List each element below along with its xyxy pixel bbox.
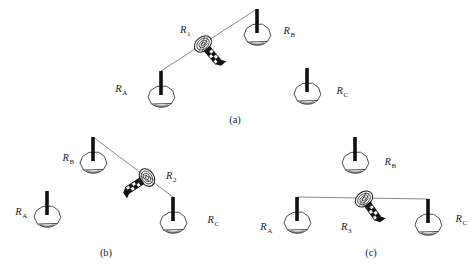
label-node-rb-b: RB (62, 153, 73, 164)
label-node-ra-a: RA (115, 84, 126, 95)
node-rc-panel-b (160, 197, 187, 233)
caption-panel-a: (a) (229, 115, 241, 126)
caption-panel-c: (c) (365, 248, 377, 259)
caption-panel-b: (b) (100, 248, 112, 259)
label-relay-r3: R3 (341, 222, 351, 233)
node-ra-panel-a (148, 71, 175, 107)
label-node-rb-a: RB (283, 26, 294, 37)
label-node-rb-c: RB (384, 157, 395, 168)
label-node-rc-c: RC (455, 214, 466, 225)
panel-c (284, 137, 442, 235)
label-node-ra-b: RA (15, 207, 26, 218)
node-ra-panel-b (34, 191, 61, 227)
node-rb-panel-b (80, 137, 107, 173)
label-node-rc-a: RC (336, 86, 347, 97)
panel-a (148, 9, 321, 107)
label-relay-r1: R1 (180, 25, 190, 36)
relay-device-r1 (191, 33, 228, 72)
relay-device-r3 (352, 188, 388, 228)
node-rc-panel-c (415, 199, 442, 235)
figure-canvas: R1 RB RA RC (a) RB R2 RA RC (b) RB RA R3… (0, 0, 475, 270)
node-rb-panel-c (342, 137, 369, 173)
label-node-ra-c: RA (260, 222, 271, 233)
panel-b (34, 137, 187, 233)
label-relay-r2: R2 (166, 171, 176, 182)
label-node-rc-b: RC (207, 215, 218, 226)
node-rc-panel-a (294, 68, 321, 104)
node-ra-panel-c (284, 197, 311, 233)
figure-svg (0, 0, 475, 270)
